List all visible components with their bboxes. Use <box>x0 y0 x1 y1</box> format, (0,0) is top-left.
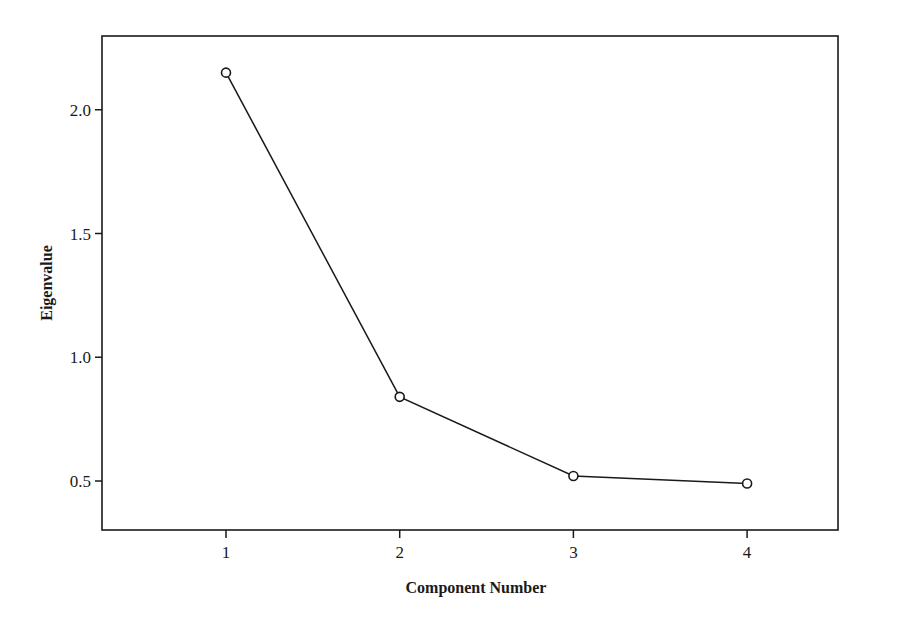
series-line <box>226 73 747 484</box>
plot-frame <box>102 36 838 530</box>
x-tick-label: 1 <box>222 543 231 562</box>
x-axis: 1234 <box>222 530 752 562</box>
x-axis-title: Component Number <box>406 579 547 597</box>
y-tick-label: 1.0 <box>70 348 91 367</box>
data-point-marker <box>395 392 404 401</box>
y-axis: 0.51.01.52.0 <box>70 101 102 491</box>
y-tick-label: 2.0 <box>70 101 91 120</box>
y-axis-title: Eigenvalue <box>38 245 56 321</box>
data-markers <box>222 68 752 488</box>
data-point-marker <box>569 472 578 481</box>
data-point-marker <box>222 68 231 77</box>
x-tick-label: 3 <box>569 543 578 562</box>
scree-plot: 0.51.01.52.0 1234 Component Number Eigen… <box>0 0 910 634</box>
y-tick-label: 1.5 <box>70 225 91 244</box>
y-tick-label: 0.5 <box>70 472 91 491</box>
x-tick-label: 2 <box>395 543 404 562</box>
data-point-marker <box>743 479 752 488</box>
x-tick-label: 4 <box>743 543 752 562</box>
